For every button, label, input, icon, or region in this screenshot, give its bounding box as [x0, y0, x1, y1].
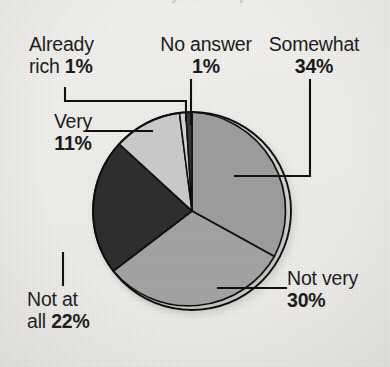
- label-very: Very 11%: [34, 110, 112, 154]
- label-already-rich-line2: rich: [29, 55, 65, 77]
- label-already-rich-value: 1%: [65, 55, 93, 77]
- label-somewhat: Somewhat 34%: [252, 33, 376, 77]
- label-no-answer-line1: No answer: [160, 33, 251, 55]
- label-no-answer: No answer 1%: [148, 33, 264, 77]
- label-very-line1: Very: [54, 110, 92, 132]
- label-already-rich-line1: Already: [29, 33, 94, 55]
- label-somewhat-line1: Somewhat: [269, 33, 360, 55]
- label-not-very-value: 30%: [287, 289, 358, 311]
- label-not-at-all-line1: Not at: [27, 288, 78, 310]
- label-already-rich: Already rich 1%: [29, 33, 94, 77]
- label-very-value: 11%: [34, 132, 112, 154]
- label-not-very-line1: Not very: [287, 267, 358, 289]
- label-somewhat-value: 34%: [252, 55, 376, 77]
- label-not-very: Not very 30%: [287, 267, 358, 311]
- pie-slices-group: [93, 112, 291, 310]
- pie-chart-figure: how well off they'll end up: [0, 0, 390, 367]
- label-not-at-all: Not at all 22%: [27, 288, 90, 332]
- label-not-at-all-line2: all: [27, 310, 51, 332]
- label-not-at-all-value: 22%: [51, 310, 89, 332]
- label-no-answer-value: 1%: [148, 55, 264, 77]
